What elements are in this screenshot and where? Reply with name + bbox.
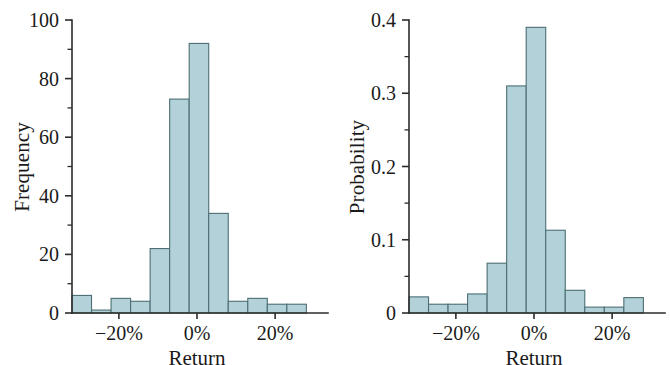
- y-tick-label: 60: [39, 126, 59, 148]
- histogram-bar: [248, 298, 268, 313]
- histogram-bar: [546, 230, 566, 313]
- x-tick-label: 0%: [184, 322, 211, 344]
- y-tick-label: 20: [39, 243, 59, 265]
- histogram-bar: [287, 304, 307, 313]
- frequency-plot-area: 020406080100−20%0%20%: [0, 0, 335, 365]
- x-tick-label: 20%: [257, 322, 294, 344]
- histogram-bars: [72, 43, 306, 313]
- y-tick-label: 0.2: [371, 156, 396, 178]
- y-tick-label: 0.3: [371, 82, 396, 104]
- histogram-bar: [624, 298, 644, 313]
- probability-x-axis-label: Return: [505, 346, 562, 365]
- y-tick-label: 0.1: [371, 229, 396, 251]
- y-tick-label: 0: [49, 302, 59, 324]
- figure-root: 020406080100−20%0%20% Frequency Return 0…: [0, 0, 670, 365]
- histogram-bar: [468, 294, 488, 313]
- x-tick-label: 20%: [594, 322, 631, 344]
- frequency-histogram-panel: 020406080100−20%0%20% Frequency Return: [0, 0, 335, 365]
- histogram-bar: [585, 307, 605, 313]
- histogram-bar: [131, 301, 151, 313]
- histogram-bar: [189, 43, 209, 313]
- y-tick-label: 40: [39, 185, 59, 207]
- y-tick-label: 100: [29, 9, 59, 31]
- histogram-bar: [448, 304, 468, 313]
- probability-histogram-panel: 00.10.20.30.4−20%0%20% Probability Retur…: [335, 0, 670, 365]
- probability-plot-area: 00.10.20.30.4−20%0%20%: [335, 0, 670, 365]
- histogram-bar: [150, 249, 170, 313]
- frequency-x-axis-label: Return: [168, 346, 225, 365]
- histogram-bar: [565, 290, 585, 313]
- probability-y-axis-label: Probability: [345, 119, 370, 213]
- histogram-bar: [409, 297, 429, 313]
- x-tick-label: 0%: [521, 322, 548, 344]
- histogram-bar: [604, 307, 624, 313]
- histogram-bar: [111, 298, 131, 313]
- histogram-bar: [487, 263, 507, 313]
- x-tick-label: −20%: [95, 322, 143, 344]
- x-tick-label: −20%: [432, 322, 480, 344]
- histogram-bar: [526, 27, 546, 313]
- y-tick-label: 0: [386, 302, 396, 324]
- histogram-bar: [72, 295, 92, 313]
- histogram-bar: [267, 304, 287, 313]
- y-tick-label: 80: [39, 68, 59, 90]
- histogram-bars: [409, 27, 643, 313]
- histogram-bar: [209, 213, 229, 313]
- histogram-bar: [507, 86, 527, 313]
- histogram-bar: [228, 301, 248, 313]
- frequency-y-axis-label: Frequency: [10, 122, 35, 212]
- histogram-bar: [429, 304, 449, 313]
- y-tick-label: 0.4: [371, 9, 396, 31]
- histogram-bar: [170, 99, 190, 313]
